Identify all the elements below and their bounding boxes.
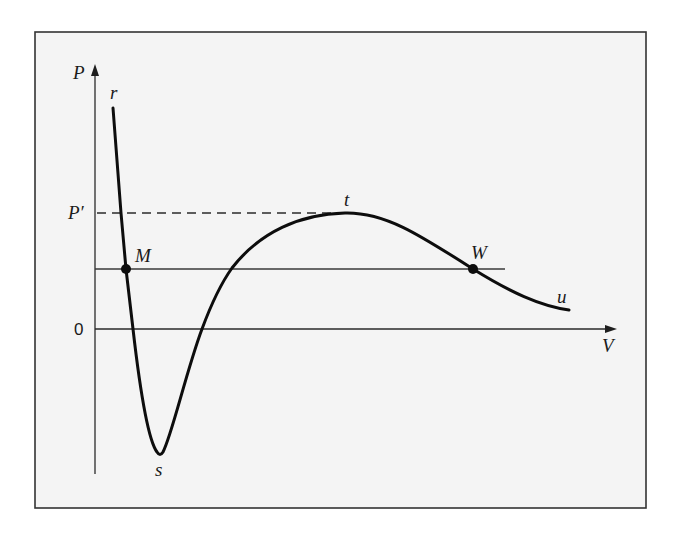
point-m <box>121 264 131 274</box>
label-t: t <box>344 189 350 210</box>
y-axis-label: P <box>72 62 85 83</box>
label-s: s <box>155 459 162 480</box>
point-w <box>468 264 478 274</box>
origin-label: 0 <box>74 320 83 339</box>
label-r: r <box>110 82 118 103</box>
pv-diagram: P V 0 P′ r s t u M W <box>0 0 686 543</box>
p-prime-label: P′ <box>67 202 85 223</box>
label-u: u <box>557 286 567 307</box>
label-m: M <box>134 245 152 266</box>
label-w: W <box>471 242 489 263</box>
